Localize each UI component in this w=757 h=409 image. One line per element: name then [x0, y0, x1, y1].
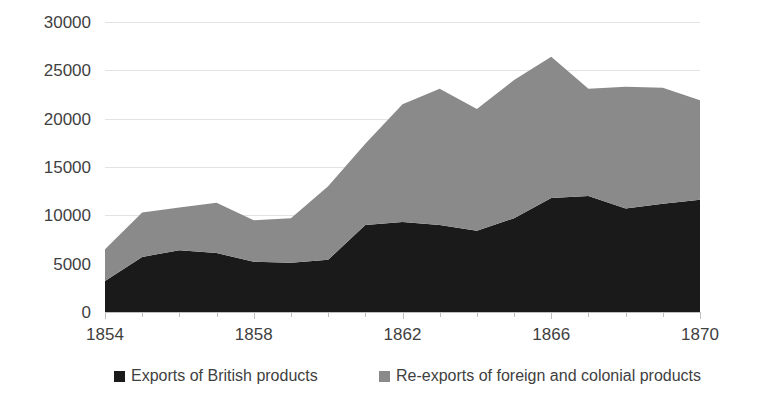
y-tick-label-15000: 15000	[44, 158, 91, 177]
legend-swatch-2	[379, 371, 390, 382]
y-tick-label-20000: 20000	[44, 110, 91, 129]
x-tick-label-1862: 1862	[384, 325, 422, 344]
y-axis-tick-labels: 050001000015000200002500030000	[44, 13, 91, 322]
legend-label-1: Exports of British products	[131, 367, 318, 384]
y-tick-label-10000: 10000	[44, 206, 91, 225]
area-series-group	[105, 57, 700, 312]
chart-legend: Exports of British productsRe-exports of…	[114, 367, 701, 384]
y-tick-label-25000: 25000	[44, 61, 91, 80]
x-tick-label-1858: 1858	[235, 325, 273, 344]
y-tick-label-0: 0	[82, 303, 91, 322]
x-tick-label-1854: 1854	[86, 325, 124, 344]
x-tick-label-1866: 1866	[532, 325, 570, 344]
legend-swatch-1	[114, 371, 125, 382]
y-tick-label-5000: 5000	[53, 255, 91, 274]
chart-canvas: 050001000015000200002500030000 185418581…	[0, 0, 757, 409]
y-tick-label-30000: 30000	[44, 13, 91, 32]
area-chart: 050001000015000200002500030000 185418581…	[0, 0, 757, 409]
legend-label-2: Re-exports of foreign and colonial produ…	[396, 367, 701, 384]
x-axis-tick-labels: 18541858186218661870	[86, 325, 719, 344]
x-axis-ticks	[106, 312, 701, 319]
x-tick-label-1870: 1870	[681, 325, 719, 344]
